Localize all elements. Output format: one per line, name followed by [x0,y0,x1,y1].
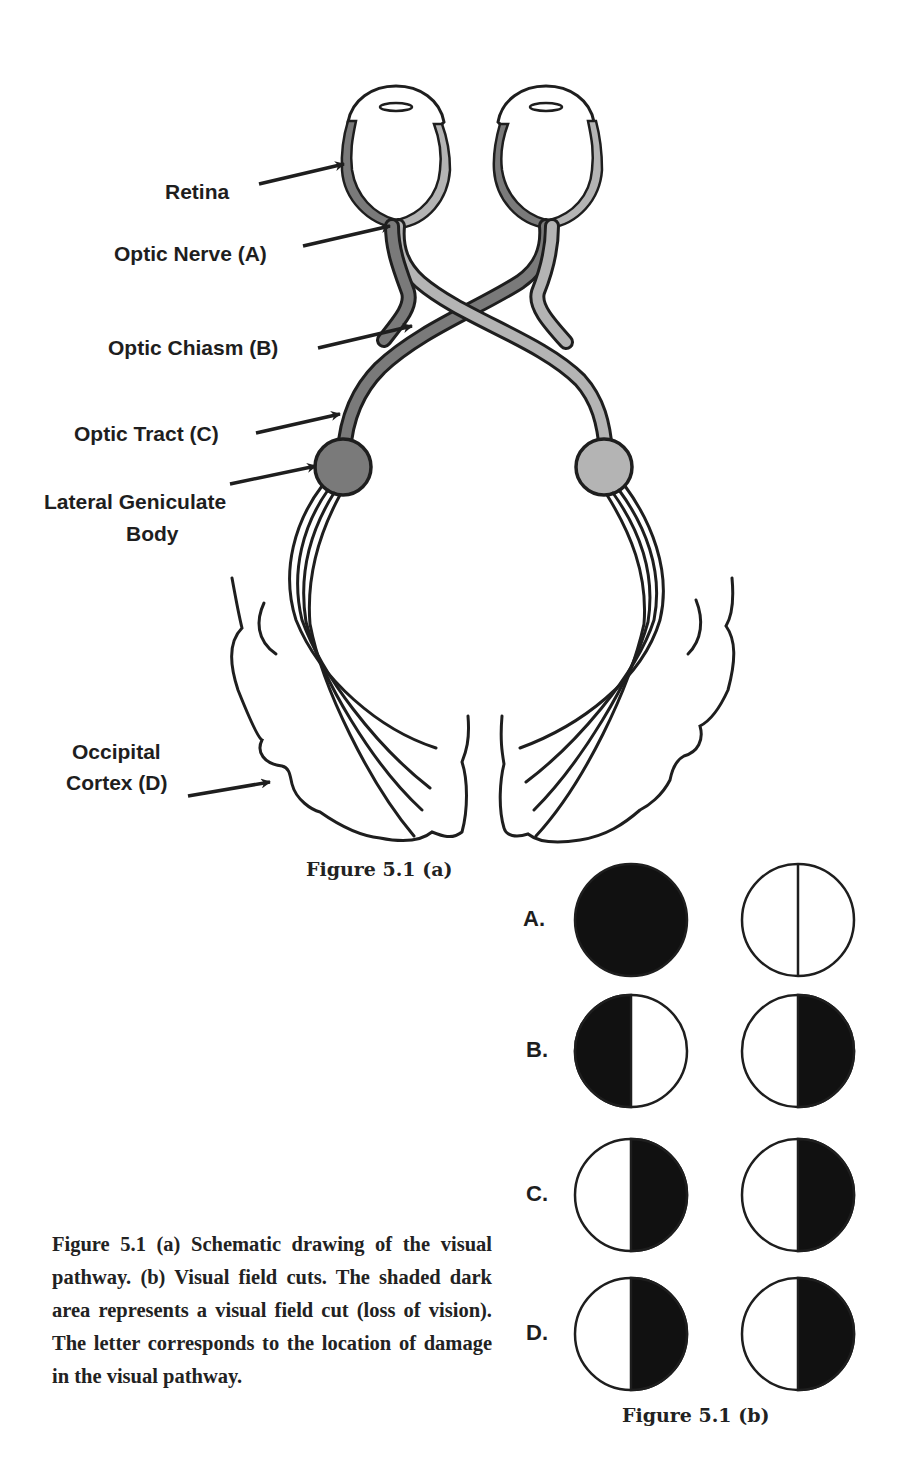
label-retina: Retina [165,180,229,204]
label-optic-tract: Optic Tract (C) [74,422,219,446]
right-occipital-lobe [500,578,734,842]
field-a-right [742,864,854,976]
label-occipital-line2: Cortex (D) [66,771,168,795]
field-b-left [575,995,687,1107]
row-letter-b: B. [526,1037,548,1063]
label-lgb-line1: Lateral Geniculate [44,490,226,514]
left-optic-radiations [290,486,436,836]
label-optic-nerve: Optic Nerve (A) [114,242,267,266]
figure-a-caption: Figure 5.1 (a) [306,858,452,880]
row-letter-a: A. [523,906,545,932]
field-c-right [742,1139,854,1251]
label-optic-chiasm: Optic Chiasm (B) [108,336,278,360]
left-occipital-lobe [232,578,469,840]
figure-description: Figure 5.1 (a) Schematic drawing of the … [52,1228,492,1393]
right-optic-radiations [520,486,663,836]
field-b-right [742,995,854,1107]
field-d-left [575,1278,687,1390]
row-letter-d: D. [526,1320,548,1346]
field-d-right [742,1278,854,1390]
right-eye [494,86,602,228]
right-lgb [576,439,632,495]
field-c-left [575,1139,687,1251]
label-occipital-line1: Occipital [72,740,161,764]
field-a-left [575,864,687,976]
visual-field-cuts [575,864,854,1390]
row-letter-c: C. [526,1181,548,1207]
left-lgb [315,439,371,495]
label-lgb-line2: Body [126,522,179,546]
figure-b-caption: Figure 5.1 (b) [622,1404,769,1426]
optic-nerves-and-chiasm [344,226,606,452]
left-eye [342,86,450,228]
